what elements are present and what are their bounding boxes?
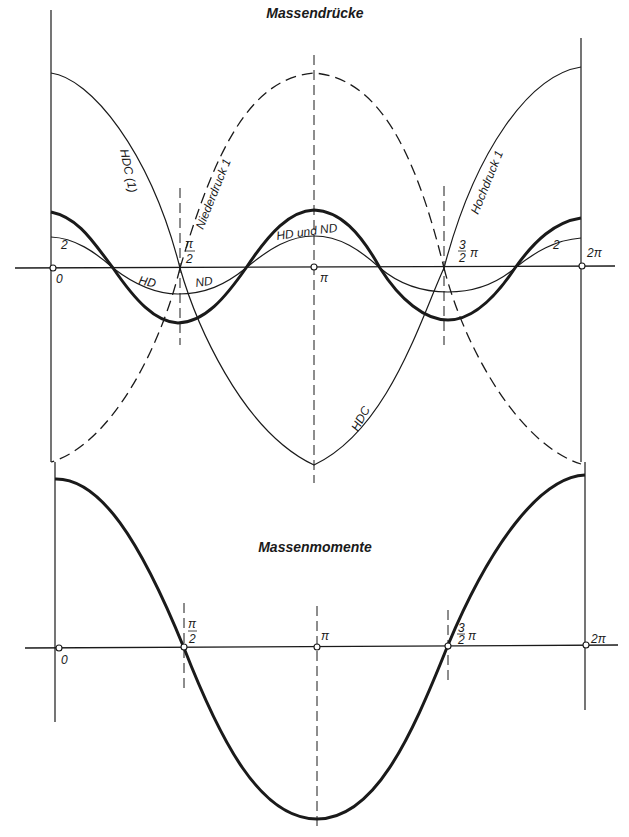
bottom-label-half-pi-num: π — [188, 617, 197, 631]
top-label-half-pi-num: π — [185, 237, 194, 251]
bottom-title: Massenmomente — [258, 539, 372, 555]
label-two-right: 2 — [552, 238, 560, 252]
top-label-half-pi-den: 2 — [185, 252, 193, 266]
label-niederdruck: Niederdruck 1 — [193, 157, 234, 232]
diagram-canvas: Massendrücke 0 π 2 π 3 2 π 2π HDC (1) Ni… — [0, 0, 629, 837]
bottom-tick-three-half-pi — [445, 643, 451, 649]
top-label-2pi: 2π — [586, 246, 603, 260]
label-hd: HD — [137, 273, 157, 290]
top-tick-pi — [311, 264, 317, 270]
top-label-three-half-den: 2 — [458, 251, 466, 265]
label-hdc1: HDC (1) — [117, 148, 140, 194]
top-label-three-half-num: 3 — [459, 238, 466, 252]
top-tick-0 — [50, 265, 56, 271]
top-tick-2pi — [579, 263, 585, 269]
curve-niederdruck-lower-right — [444, 268, 581, 464]
bottom-label-0: 0 — [61, 653, 68, 667]
bottom-label-three-half-pi: π — [468, 629, 477, 643]
bottom-label-2pi: 2π — [590, 632, 607, 646]
bottom-tick-0 — [56, 645, 62, 651]
top-label-0: 0 — [56, 272, 63, 286]
bottom-x-axis — [25, 645, 618, 648]
bottom-label-pi: π — [321, 629, 330, 643]
bottom-tick-half-pi — [181, 644, 187, 650]
bottom-label-half-pi-den: 2 — [188, 632, 196, 646]
label-hd-und-nd: HD und ND — [275, 221, 338, 243]
label-two-left: 2 — [60, 238, 68, 252]
bottom-label-three-half-den: 2 — [457, 633, 465, 647]
top-label-pi: π — [320, 271, 329, 285]
curve-niederdruck-lower-left — [51, 268, 180, 462]
label-nd: ND — [194, 274, 213, 290]
bottom-tick-pi — [314, 644, 320, 650]
top-title: Massendrücke — [266, 5, 363, 21]
top-label-three-half-pi: π — [470, 246, 479, 260]
bottom-tick-2pi — [583, 642, 589, 648]
